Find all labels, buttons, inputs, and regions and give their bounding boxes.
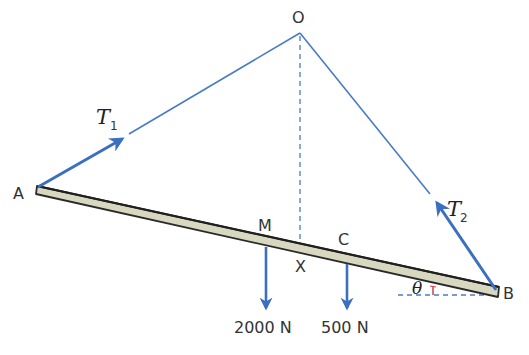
label-M: M bbox=[258, 216, 272, 235]
label-T2-subscript: 2 bbox=[460, 211, 468, 225]
beam bbox=[36, 186, 499, 297]
t1-arrow bbox=[38, 139, 122, 187]
load-label-C: 500 N bbox=[321, 318, 369, 337]
label-B: B bbox=[503, 284, 514, 303]
beam-top-edge bbox=[37, 186, 499, 287]
label-theta: θ bbox=[412, 278, 422, 298]
angle-tick bbox=[430, 286, 436, 287]
beam-diagram: O A B M C X T 1 T 2 θ 2000 N 500 N bbox=[0, 0, 529, 355]
label-X: X bbox=[295, 257, 306, 276]
label-C: C bbox=[338, 230, 349, 249]
string-O-B bbox=[300, 33, 430, 194]
label-T1-subscript: 1 bbox=[110, 119, 118, 133]
label-A: A bbox=[13, 184, 24, 203]
label-O: O bbox=[292, 8, 305, 27]
load-label-M: 2000 N bbox=[234, 318, 292, 337]
string-A-O bbox=[129, 33, 300, 134]
